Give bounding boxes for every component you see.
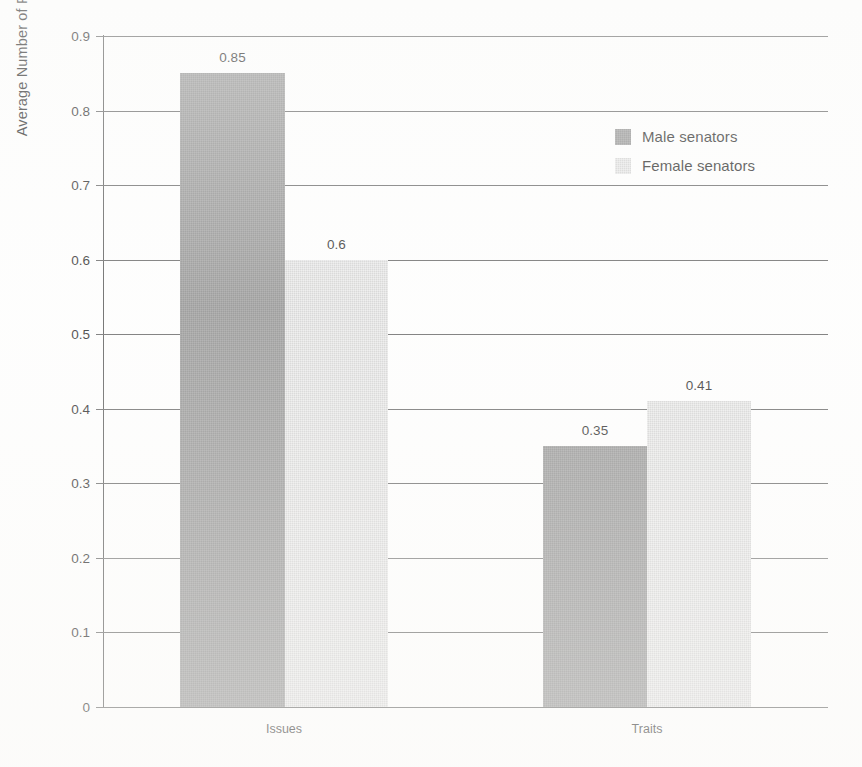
y-axis-tick-0.6 [96,260,103,261]
y-axis-tick-0.1 [96,632,103,633]
bar-value-label-traits-male: 0.35 [543,423,647,438]
y-axis-tick-0.9 [96,36,103,37]
bar-traits-female-senators[interactable] [647,401,751,707]
gridline-0.9 [103,36,828,37]
y-tick-label-0.8: 0.8 [44,103,90,118]
legend-item-male-senators[interactable]: Male senators [615,122,825,151]
y-axis-tick-labels: 0.9 0.8 0.7 0.6 0.5 0.4 0.3 0.2 0.1 0 [38,0,90,767]
bar-issues-female-senators[interactable] [285,260,388,707]
gridline-0-axis [103,707,828,708]
bar-value-label-traits-female: 0.41 [647,378,751,393]
y-tick-label-0.7: 0.7 [44,178,90,193]
y-tick-label-0.3: 0.3 [44,476,90,491]
y-tick-label-0: 0 [44,700,90,715]
y-tick-label-0.4: 0.4 [44,401,90,416]
y-axis-tick-0 [96,707,103,708]
bar-traits-male-senators[interactable] [543,446,647,707]
legend: Male senators Female senators [615,122,825,180]
light-gray-swatch-icon [615,158,631,174]
y-axis-tick-0.2 [96,558,103,559]
y-axis-tick-0.4 [96,409,103,410]
y-tick-label-0.2: 0.2 [44,550,90,565]
bar-issues-male-senators[interactable] [180,73,285,707]
y-tick-label-0.9: 0.9 [44,29,90,44]
y-axis-title: Average Number of Paragraphs Per Article [14,0,40,206]
y-tick-label-0.1: 0.1 [44,625,90,640]
dark-gray-swatch-icon [615,129,631,145]
y-axis-tick-0.7 [96,185,103,186]
bar-chart-figure: Average Number of Paragraphs Per Article… [0,0,862,767]
bar-value-label-issues-male: 0.85 [180,50,285,65]
y-tick-label-0.5: 0.5 [44,327,90,342]
legend-label-female-senators: Female senators [642,157,755,174]
x-axis-category-label-traits: Traits [543,722,751,736]
y-axis-tick-0.8 [96,111,103,112]
x-axis-category-label-issues: Issues [180,722,388,736]
bar-value-label-issues-female: 0.6 [285,237,388,252]
y-axis-tick-0.5 [96,334,103,335]
legend-item-female-senators[interactable]: Female senators [615,151,825,180]
y-axis-title-label: Average Number of Paragraphs Per Article [14,0,30,206]
legend-label-male-senators: Male senators [642,128,738,145]
y-axis-tick-0.3 [96,483,103,484]
y-tick-label-0.6: 0.6 [44,252,90,267]
